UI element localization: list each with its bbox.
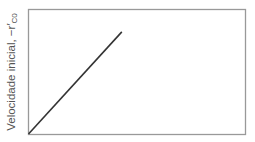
data-line <box>29 32 122 134</box>
plot-frame <box>29 10 246 135</box>
chart-plot <box>0 0 255 142</box>
